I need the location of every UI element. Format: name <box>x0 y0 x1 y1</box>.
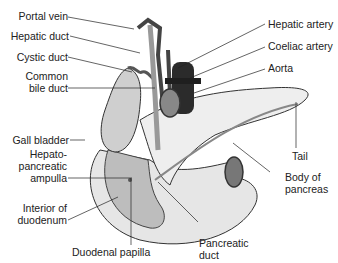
label-tail: Tail <box>292 150 308 162</box>
label-hepato-line2: pancreatic <box>0 160 67 172</box>
label-portal-vein: Portal vein <box>0 10 68 22</box>
label-body-of-pancreas-line1: Body of <box>285 171 321 183</box>
label-hepato-line3: ampulla <box>0 172 67 184</box>
label-gall-bladder: Gall bladder <box>0 134 69 146</box>
label-hepatic-artery: Hepatic artery <box>268 18 333 30</box>
label-coeliac-artery: Coeliac artery <box>268 40 333 52</box>
jejunum-cut-end <box>225 157 243 187</box>
label-aorta: Aorta <box>268 62 293 74</box>
label-hepato-line1: Hepato- <box>0 148 67 160</box>
gall-bladder <box>101 68 141 152</box>
label-duodenal-papilla: Duodenal papilla <box>72 246 150 258</box>
label-hepatic-duct: Hepatic duct <box>0 30 69 42</box>
label-body-of-pancreas-line2: pancreas <box>285 183 328 195</box>
label-pancreatic-duct-line2: duct <box>199 249 219 261</box>
duodenal-papilla <box>128 178 132 182</box>
label-pancreatic-duct-line1: Pancreatic <box>199 237 249 249</box>
duodenum-cut-end <box>160 89 180 117</box>
label-cystic-duct: Cystic duct <box>0 51 68 63</box>
label-interior-duodenum-line2: duodenum <box>0 214 67 226</box>
coeliac-artery <box>165 78 201 84</box>
label-common-bile-duct-line1: Common <box>0 70 68 82</box>
label-interior-duodenum-line1: Interior of <box>0 202 67 214</box>
label-common-bile-duct-line2: bile duct <box>0 82 68 94</box>
